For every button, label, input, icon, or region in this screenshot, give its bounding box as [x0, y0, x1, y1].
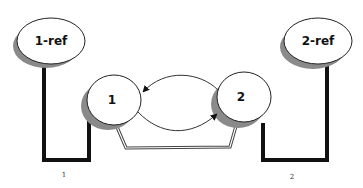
node-1-ref[interactable]: 1-ref — [13, 18, 85, 68]
node-2-ref[interactable]: 2-ref — [280, 18, 352, 69]
node-label-2: 2 — [237, 90, 245, 104]
node-1[interactable]: 1 — [81, 75, 141, 130]
bracket-ref2-to-2 — [263, 64, 327, 160]
state-diagram: 1-ref 2-ref 1 2 1 2 — [0, 0, 363, 188]
double-line-connector — [117, 126, 236, 148]
caption-2: 2 — [290, 173, 294, 181]
node-label-2-ref: 2-ref — [302, 34, 335, 48]
caption-1: 1 — [62, 171, 66, 179]
edge-1-to-2-arrow — [138, 112, 217, 131]
node-2[interactable]: 2 — [211, 72, 271, 128]
node-label-1-ref: 1-ref — [35, 34, 68, 48]
node-label-1: 1 — [108, 93, 116, 107]
edge-2-to-1-arrow — [143, 75, 218, 92]
